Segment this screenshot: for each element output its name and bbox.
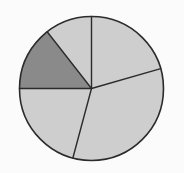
pie-chart-canvas xyxy=(0,0,184,173)
pie-chart-figure: Pie chart divided into five slices; one … xyxy=(0,0,184,173)
